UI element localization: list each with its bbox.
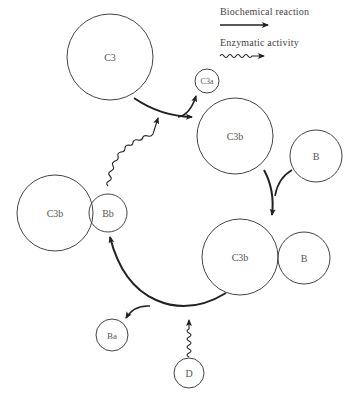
label-ba: Ba [107,331,117,341]
label-b-bottom: B [301,253,308,264]
wavy-bb-to-c3-cleavage [107,118,158,186]
wavy-d-to-factor-b [187,320,191,357]
arrow-c3-to-c3b [134,98,192,117]
legend-enzymatic-label: Enzymatic activity [220,37,299,48]
legend-enzymatic-arrow [220,55,264,58]
complement-diagram: C3 C3a C3b B C3b B C3b Bb Ba D [0,0,354,394]
label-c3b-left: C3b [47,208,64,219]
arrow-branch-to-ba [126,306,150,318]
arrow-b-join [275,170,292,196]
arrow-branch-to-c3a [178,96,196,117]
label-bb: Bb [102,208,114,219]
label-c3b-bottom: C3b [232,252,249,263]
arrow-c3b-b-to-c3bb [264,170,273,215]
label-c3b-top: C3b [227,131,244,142]
label-b-top: B [313,151,320,162]
label-c3: C3 [104,52,116,63]
label-d: D [185,368,192,379]
arrow-c3bb-to-c3bbb [110,237,226,306]
legend-biochemical-label: Biochemical reaction [220,6,309,17]
label-c3a: C3a [201,77,214,86]
